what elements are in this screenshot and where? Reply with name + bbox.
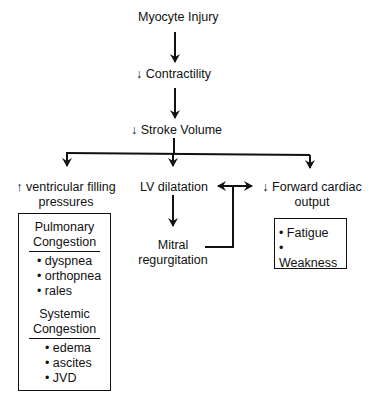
node-myocyte-injury: Myocyte Injury bbox=[138, 10, 219, 25]
list-item: • rales bbox=[37, 284, 106, 299]
list-item: • JVD bbox=[45, 371, 106, 386]
node-filling-pressures: ↑ ventricular filling pressures bbox=[16, 180, 116, 210]
node-stroke-volume: ↓ Stroke Volume bbox=[131, 123, 222, 138]
pulmonary-congestion-title: Pulmonary Congestion bbox=[23, 220, 106, 252]
list-item: • ascites bbox=[45, 356, 106, 371]
branch-horizontal-line bbox=[66, 153, 310, 155]
mitral-feedback-line bbox=[205, 186, 233, 247]
list-item: • orthopnea bbox=[37, 269, 106, 284]
congestion-box: Pulmonary Congestion • dyspnea • orthopn… bbox=[18, 213, 111, 391]
systemic-congestion-title: Systemic Congestion bbox=[23, 307, 106, 339]
list-item: • Fatigue bbox=[279, 226, 342, 241]
node-mitral-regurgitation: Mitral regurgitation bbox=[138, 238, 208, 268]
node-forward-output: ↓ Forward cardiac output bbox=[257, 180, 367, 210]
output-symptoms-box: • Fatigue • Weakness bbox=[274, 218, 347, 269]
node-lv-dilatation: LV dilatation bbox=[140, 180, 208, 195]
list-item: • Weakness bbox=[279, 241, 342, 271]
list-item: • dyspnea bbox=[37, 254, 106, 269]
list-item: • edema bbox=[45, 341, 106, 356]
node-contractility: ↓ Contractility bbox=[136, 67, 211, 82]
